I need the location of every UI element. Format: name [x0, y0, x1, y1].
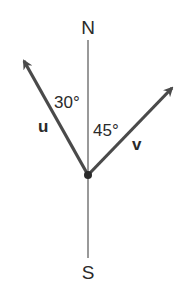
- vector-diagram: N S 30° u 45° v: [0, 0, 184, 296]
- vector-u-angle-label: 30°: [54, 93, 80, 112]
- vector-v-angle-label: 45°: [93, 121, 119, 140]
- north-label: N: [81, 17, 95, 38]
- vector-u-label: u: [38, 117, 48, 136]
- vector-u-arrow: [24, 61, 88, 175]
- south-label: S: [82, 262, 95, 283]
- vector-v-label: v: [132, 135, 142, 154]
- origin-point: [84, 171, 92, 179]
